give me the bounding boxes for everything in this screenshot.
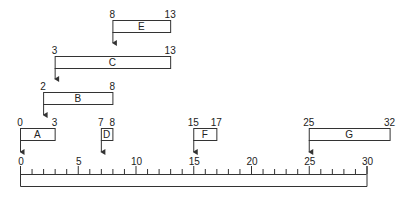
axis-tick-label: 15 (189, 156, 201, 167)
interval-g: G2532 (303, 117, 395, 152)
interval-end-label: 13 (165, 9, 177, 20)
interval-end-label: 3 (52, 117, 58, 128)
interval-f: F1517 (188, 117, 223, 152)
axis-tick-label: 25 (304, 156, 316, 167)
interval-label: B (74, 93, 81, 104)
interval-label: G (345, 129, 353, 140)
interval-end-label: 32 (384, 117, 396, 128)
interval-end-label: 17 (211, 117, 223, 128)
axis-tick-label: 0 (18, 156, 24, 167)
interval-d: D78 (98, 117, 116, 152)
interval-label: E (138, 21, 145, 32)
interval-start-label: 0 (17, 117, 23, 128)
interval-start-label: 3 (52, 45, 58, 56)
interval-a: A03 (17, 117, 58, 152)
interval-start-label: 2 (40, 81, 46, 92)
interval-end-label: 8 (110, 81, 116, 92)
axis-tick-label: 20 (246, 156, 258, 167)
interval-start-label: 25 (303, 117, 315, 128)
interval-diagram: E813C313B28A03D78F1517G2532 051015202530 (0, 0, 406, 200)
number-line-axis: 051015202530 (18, 156, 373, 187)
interval-end-label: 13 (165, 45, 177, 56)
axis-tick-label: 10 (131, 156, 143, 167)
interval-label: C (109, 57, 116, 68)
axis-tick-label: 30 (362, 156, 374, 167)
interval-e: E813 (110, 9, 177, 43)
interval-end-label: 8 (110, 117, 116, 128)
intervals: E813C313B28A03D78F1517G2532 (17, 9, 395, 152)
interval-start-label: 15 (188, 117, 200, 128)
interval-start-label: 7 (98, 117, 104, 128)
interval-start-label: 8 (110, 9, 116, 20)
interval-b: B28 (40, 81, 115, 115)
interval-c: C313 (52, 45, 176, 79)
interval-label: D (103, 129, 110, 140)
interval-label: A (34, 129, 41, 140)
axis-tick-label: 5 (76, 156, 82, 167)
interval-label: F (202, 129, 208, 140)
